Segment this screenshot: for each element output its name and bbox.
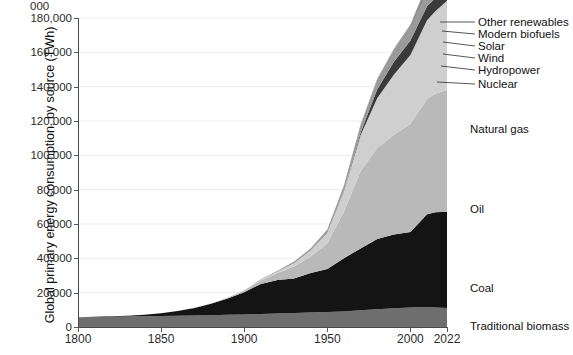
series-label-oil: Oil [470, 203, 484, 215]
ytick-mark [74, 293, 79, 294]
series-label-wind: Wind [478, 52, 504, 64]
series-label-other-renewables: Other renewables [478, 16, 569, 28]
series-label-coal: Coal [470, 282, 494, 294]
xtick-mark [410, 327, 411, 332]
xtick-label: 1900 [231, 332, 258, 346]
xtick-mark [161, 327, 162, 332]
y-axis-line [78, 18, 79, 328]
xtick-label: 2000 [397, 332, 424, 346]
ytick-mark [74, 190, 79, 191]
ytick-mark [74, 224, 79, 225]
ytick-mark [74, 327, 79, 328]
ytick-mark [74, 18, 79, 19]
ytick-mark [74, 121, 79, 122]
ytick-mark [74, 87, 79, 88]
x-axis-line [78, 327, 447, 328]
xtick-mark [244, 327, 245, 332]
xtick-mark [327, 327, 328, 332]
chart-canvas: 000 Global primary energy consumption, b… [0, 0, 573, 355]
ytick-mark [74, 155, 79, 156]
series-label-natural-gas: Natural gas [470, 123, 529, 135]
series-label-modern-biofuels: Modern biofuels [478, 28, 560, 40]
xtick-label: 1800 [65, 332, 92, 346]
xtick-label: 1850 [148, 332, 175, 346]
area-bands [78, 0, 447, 327]
ytick-mark [74, 258, 79, 259]
xtick-mark [447, 327, 448, 332]
xtick-label: 2022 [434, 332, 461, 346]
ytick-mark [74, 52, 79, 53]
series-label-nuclear: Nuclear [478, 78, 518, 90]
series-label-traditional-biomass: Traditional biomass [470, 320, 569, 332]
series-label-solar: Solar [478, 40, 505, 52]
xtick-label: 1950 [314, 332, 341, 346]
series-label-hydropower: Hydropower [478, 64, 540, 76]
